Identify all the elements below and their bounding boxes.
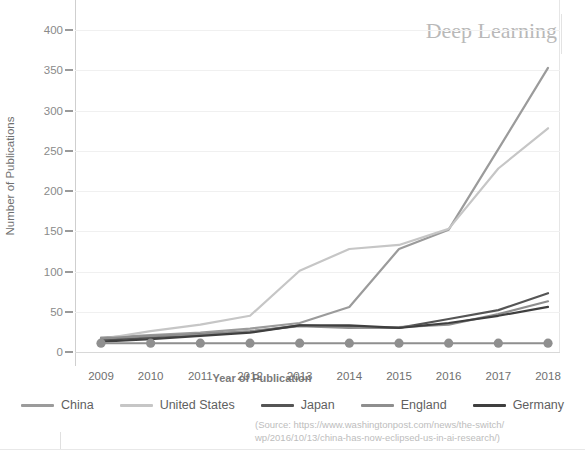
series-line-united-states <box>101 128 548 339</box>
x-tick-2013: 2013 <box>287 370 313 382</box>
y-tick-dash <box>65 29 73 31</box>
x-tick-2016: 2016 <box>436 370 462 382</box>
y-tick-250: 250 <box>44 145 75 157</box>
x-tick-2009: 2009 <box>88 370 114 382</box>
y-tick-350: 350 <box>44 64 75 76</box>
x-tick-2018: 2018 <box>535 370 561 382</box>
data-point-marker <box>345 339 354 348</box>
legend-item-united-states[interactable]: United States <box>120 398 235 412</box>
legend-label: Japan <box>301 398 335 412</box>
y-tick-dash <box>65 311 73 313</box>
data-point-marker <box>96 339 105 348</box>
bottom-left-artifact <box>60 432 191 450</box>
y-tick-50: 50 <box>50 306 75 318</box>
data-point-marker <box>543 339 552 348</box>
y-tick-100: 100 <box>44 266 75 278</box>
data-point-marker <box>394 339 403 348</box>
legend-item-england[interactable]: England <box>361 398 447 412</box>
y-tick-dash <box>65 271 73 273</box>
y-tick-dash <box>65 69 73 71</box>
legend-item-germany[interactable]: Germany <box>473 398 564 412</box>
y-tick-dash <box>65 351 73 353</box>
x-tick-2012: 2012 <box>237 370 263 382</box>
data-point-marker <box>196 339 205 348</box>
data-point-marker <box>245 339 254 348</box>
gridline-0 <box>75 352 560 353</box>
series-line-china <box>101 68 548 338</box>
chart-legend: ChinaUnited StatesJapanEnglandGermany <box>0 392 585 418</box>
legend-label: England <box>401 398 447 412</box>
x-tick-2017: 2017 <box>486 370 512 382</box>
source-line-1: (Source: https://www.washingtonpost.com/… <box>255 418 504 431</box>
data-point-marker <box>494 339 503 348</box>
legend-item-japan[interactable]: Japan <box>261 398 335 412</box>
y-tick-400: 400 <box>44 24 75 36</box>
x-tick-2011: 2011 <box>188 370 213 382</box>
title-divider <box>561 14 562 54</box>
data-point-marker <box>146 339 155 348</box>
data-point-marker <box>444 339 453 348</box>
legend-label: China <box>61 398 94 412</box>
source-note: (Source: https://www.washingtonpost.com/… <box>255 418 504 444</box>
series-lines <box>75 14 560 352</box>
y-tick-200: 200 <box>44 185 75 197</box>
series-line-england <box>101 301 548 338</box>
y-tick-150: 150 <box>44 225 75 237</box>
legend-swatch-icon <box>120 404 153 407</box>
y-axis-label: Number of Publications <box>4 117 16 236</box>
legend-label: United States <box>160 398 235 412</box>
legend-swatch-icon <box>361 404 394 407</box>
x-tick-2010: 2010 <box>138 370 164 382</box>
legend-item-china[interactable]: China <box>21 398 94 412</box>
y-tick-dash <box>65 230 73 232</box>
y-tick-0: 0 <box>57 346 75 358</box>
chart-canvas: Deep Learning Number of Publications Yea… <box>0 0 585 450</box>
legend-label: Germany <box>513 398 564 412</box>
x-tick-2014: 2014 <box>337 370 363 382</box>
y-tick-dash <box>65 150 73 152</box>
legend-swatch-icon <box>261 404 294 407</box>
series-line-japan <box>101 293 548 340</box>
y-tick-dash <box>65 110 73 112</box>
source-line-2: wp/2016/10/13/china-has-now-eclipsed-us-… <box>255 431 504 444</box>
data-point-marker <box>295 339 304 348</box>
x-tick-2015: 2015 <box>386 370 412 382</box>
y-tick-dash <box>65 190 73 192</box>
y-tick-300: 300 <box>44 105 75 117</box>
legend-swatch-icon <box>473 404 506 407</box>
legend-swatch-icon <box>21 404 54 407</box>
plot-area: 050100150200250300350400 200920102011201… <box>75 14 560 352</box>
